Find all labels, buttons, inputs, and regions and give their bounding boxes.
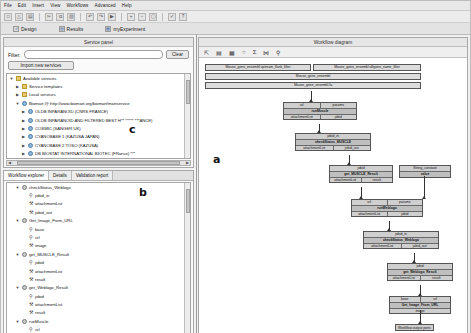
workflow-output-ports-node[interactable]: Workflow output ports — [395, 324, 434, 331]
clear-button[interactable]: Clear — [166, 50, 189, 59]
tree-toggle-icon[interactable]: ▶ — [21, 109, 26, 114]
tree-item[interactable]: ▶Local services — [7, 91, 190, 99]
menu-item-file[interactable]: File — [4, 3, 12, 8]
tree-toggle-icon[interactable]: ▶ — [21, 134, 26, 139]
tree-toggle-icon[interactable]: ▶ — [21, 126, 26, 131]
tree-item[interactable]: ▶CYANOBASE 1 (KAZUSA JAPAN) — [7, 133, 190, 141]
input-node-1[interactable]: Mouse_gene_ensembl:uptream_flank_filter — [205, 64, 311, 71]
tree-toggle-icon[interactable]: ▶ — [15, 84, 20, 89]
menu-item-advanced[interactable]: Advanced — [95, 3, 116, 8]
tree-item[interactable]: ▼get_Weblogo_Result — [7, 284, 190, 292]
tree-item[interactable]: ⚒attachmentList — [7, 200, 190, 208]
zoom-out-button[interactable]: − — [138, 13, 146, 21]
tree-item[interactable]: ▼runMuscle — [7, 317, 190, 325]
tree-toggle-icon[interactable]: ▶ — [21, 143, 26, 148]
tree-item[interactable]: ▶Service templates — [7, 82, 190, 90]
tree-item[interactable]: ▼Biomart @ http://www.biomart.org/biomar… — [7, 99, 190, 107]
search-input[interactable] — [24, 50, 164, 59]
runweblogo-node[interactable]: urlparamsrunWeblogoattachmentListjobid — [351, 199, 423, 217]
tree-item[interactable]: ⚒image — [7, 242, 190, 250]
tab-results[interactable]: ▤ Results — [59, 26, 84, 32]
tree-item[interactable]: ▶DB BIOSTAT INTERNATIONAL BIOTEC (FRance… — [7, 150, 190, 158]
tree-toggle-icon[interactable]: ▶ — [15, 92, 20, 97]
tree-toggle-icon[interactable]: ▶ — [21, 151, 26, 156]
diagram-tool-3-icon[interactable]: Σ — [253, 49, 257, 55]
tree-toggle-icon[interactable]: ▼ — [15, 319, 20, 324]
tree-item[interactable]: ▼Get_Image_From_URL — [7, 216, 190, 224]
validate-button[interactable]: ✓ — [168, 13, 176, 21]
tab-details[interactable]: Details — [49, 171, 72, 180]
new-workflow-button[interactable]: □ — [4, 13, 12, 21]
tree-toggle-icon[interactable]: ▼ — [15, 101, 20, 106]
tree-item[interactable]: ▶OLDB INPARANOID (CNRS FRANCE) — [7, 108, 190, 116]
tab-validation-report[interactable]: Validation report — [72, 171, 113, 180]
tree-item[interactable]: ▶OLDB INPARANOID AND FILTERED BEST H** *… — [7, 116, 190, 124]
get-muscle-result-node[interactable]: jobidget_MUSCLE_ResultattachmentListresu… — [329, 165, 393, 183]
tree-item[interactable]: ⚲jobid — [7, 258, 190, 266]
tree-item[interactable]: ▼checkStatus_Weblogo — [7, 183, 190, 191]
tree-item[interactable]: ▶CYANOBASE 2 TOSO (KAZUSA) — [7, 141, 190, 149]
explorer-tree-scrollbar[interactable] — [184, 183, 190, 333]
scrollbar-thumb[interactable] — [186, 80, 190, 104]
copy-button[interactable]: ⧉ — [56, 13, 64, 21]
tree-item[interactable]: ⚲base — [7, 225, 190, 233]
diagram-tool-4-icon[interactable]: ⋈ — [263, 49, 269, 56]
redo-button[interactable]: ↷ — [97, 13, 105, 21]
menu-item-edit[interactable]: Edit — [18, 3, 26, 8]
tree-item[interactable]: ⚒attachmentList — [7, 267, 190, 275]
tree-item[interactable]: ⚒jobid_out — [7, 208, 190, 216]
diagram-tool-2-icon[interactable]: ○ — [242, 49, 246, 55]
tree-item[interactable]: ⚒attachmentList — [7, 300, 190, 308]
open-workflow-button[interactable]: △ — [15, 13, 23, 21]
input-node-3[interactable]: Mouse_gene_ensembl — [205, 73, 421, 80]
tree-toggle-icon[interactable]: ▼ — [15, 285, 20, 290]
tree-item[interactable]: ⚒result — [7, 309, 190, 317]
workflow-explorer-tree[interactable]: ▼checkStatus_Weblogo⚲jobid_in⚒attachment… — [6, 182, 191, 333]
help-button[interactable]: ? — [179, 13, 187, 21]
tree-toggle-icon[interactable]: ▼ — [15, 185, 20, 190]
scroll-right-icon[interactable]: ▶ — [185, 160, 190, 165]
menu-item-insert[interactable]: Insert — [32, 3, 44, 8]
cut-button[interactable]: ✂ — [45, 13, 53, 21]
tree-item[interactable]: ⚒result — [7, 275, 190, 283]
tree-item[interactable]: ⚲url — [7, 233, 190, 241]
import-new-services-button[interactable]: Import new services — [8, 61, 74, 70]
tree-item[interactable]: ▼get_MUSCLE_Result — [7, 250, 190, 258]
input-node-4[interactable]: Mouse_gene_ensembl.fa — [205, 82, 421, 89]
service-tree[interactable]: ▼Available services▶Service templates▶Lo… — [6, 73, 191, 159]
menu-item-help[interactable]: Help — [122, 3, 132, 8]
save-workflow-button[interactable]: ▤ — [26, 13, 34, 21]
checkstatus-weblogo-node[interactable]: jobid_incheckStatus_WeblogoattachmentLis… — [363, 231, 439, 249]
workflow-canvas[interactable]: Workflow output ports Mouse_gene_ensembl… — [199, 58, 467, 333]
run-button[interactable]: ▶ — [108, 13, 116, 21]
scrollbar-thumb[interactable] — [186, 189, 190, 213]
tree-item[interactable]: ⚲jobid — [7, 292, 190, 300]
service-tree-scrollbar[interactable] — [184, 74, 190, 158]
string-constant-node[interactable]: String_constantvalue — [399, 165, 451, 178]
diagram-tool-0-icon[interactable]: ▤ — [216, 49, 222, 56]
tree-toggle-icon[interactable]: ▼ — [15, 252, 20, 257]
menu-item-view[interactable]: View — [50, 3, 60, 8]
tab-design[interactable]: ✓ Design — [13, 26, 37, 32]
tab-myexperiment[interactable]: ▦ myExperiment — [105, 26, 145, 32]
tree-toggle-icon[interactable]: ▼ — [15, 218, 20, 223]
hscrollbar-thumb[interactable] — [17, 161, 180, 165]
fit-button[interactable]: ▢ — [149, 13, 157, 21]
get-weblogo-result-node[interactable]: jobidget_Weblogo_ResultattachmentListres… — [387, 263, 453, 281]
menu-item-workflows[interactable]: Workflows — [67, 3, 89, 8]
tree-toggle-icon[interactable]: ▶ — [21, 118, 26, 123]
zoom-fit-icon[interactable]: ⇱ — [204, 49, 209, 56]
scroll-left-icon[interactable]: ◀ — [7, 160, 12, 165]
tab-workflow-explorer[interactable]: Workflow explorer — [4, 171, 49, 180]
runmuscle-node[interactable]: urlparamsrunMuscleattachmentListjobid — [283, 102, 357, 120]
tree-toggle-icon[interactable]: ▼ — [9, 76, 14, 81]
diagram-tool-5-icon[interactable]: ⚲ — [276, 49, 280, 56]
paste-button[interactable]: ▧ — [67, 13, 75, 21]
tree-item[interactable]: ⚲jobid_in — [7, 191, 190, 199]
tree-item[interactable]: ⚲url — [7, 326, 190, 333]
input-node-2[interactable]: Mouse_gene_ensembl:alligene_name_filter — [313, 64, 421, 71]
diagram-tool-1-icon[interactable]: ▦ — [229, 49, 235, 56]
zoom-in-button[interactable]: + — [127, 13, 135, 21]
checkstatus-muscle-node[interactable]: jobid_incheckStatus_MUSCLEattachmentList… — [295, 133, 371, 151]
undo-button[interactable]: ↶ — [86, 13, 94, 21]
